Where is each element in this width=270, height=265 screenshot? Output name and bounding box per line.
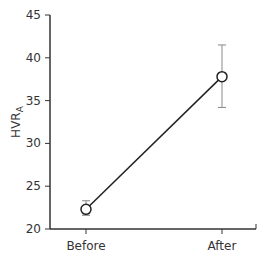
y-tick-label: 30 xyxy=(26,136,41,150)
y-axis-label: HVRA xyxy=(9,105,25,138)
y-tick-label: 45 xyxy=(26,8,41,22)
y-tick-label: 35 xyxy=(26,94,41,108)
x-axis: BeforeAfter xyxy=(50,224,256,253)
y-tick-label: 20 xyxy=(26,222,41,236)
series-line xyxy=(86,77,222,210)
x-tick-label: Before xyxy=(66,239,105,253)
y-axis: 202530354045 xyxy=(26,8,50,236)
data-point-marker xyxy=(81,204,91,214)
data-point-marker xyxy=(217,72,227,82)
y-tick-label: 40 xyxy=(26,51,41,65)
line-chart: 202530354045 BeforeAfter HVRA xyxy=(0,0,270,265)
data-series xyxy=(81,45,227,215)
y-tick-label: 25 xyxy=(26,179,41,193)
x-tick-label: After xyxy=(208,239,237,253)
